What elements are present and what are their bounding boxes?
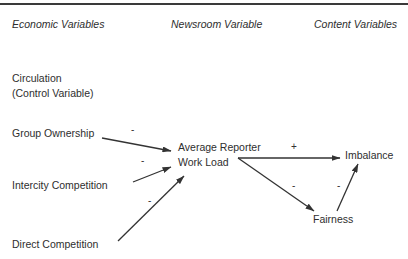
arrow-fairness-imbalance <box>337 164 358 211</box>
arrows-layer <box>0 0 408 259</box>
arrow-intercity <box>133 167 171 182</box>
arrow-workload-fairness <box>238 158 314 211</box>
arrow-direct <box>118 176 184 241</box>
arrow-group-ownership <box>102 138 171 151</box>
